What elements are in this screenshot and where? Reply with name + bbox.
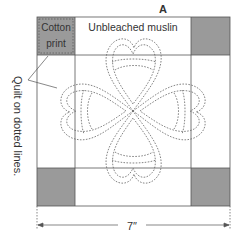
quilt-note: Quilt on dotted lines. [12, 76, 24, 176]
leader-lines [28, 56, 57, 88]
corner-top-right [191, 17, 230, 55]
dimension-label: 7″ [127, 220, 137, 232]
celtic-knot-quilting-pattern [61, 39, 205, 183]
corner-bottom-left [37, 168, 75, 206]
cotton-print-label-1: Cotton [41, 22, 70, 33]
muslin-label: Unbleached muslin [88, 21, 177, 33]
quilt-block-diagram: A Cotton print Unbleached muslin Quilt o… [0, 0, 238, 236]
corner-bottom-right [191, 168, 230, 206]
figure-label: A [159, 3, 167, 15]
cotton-print-label-2: print [46, 38, 66, 49]
